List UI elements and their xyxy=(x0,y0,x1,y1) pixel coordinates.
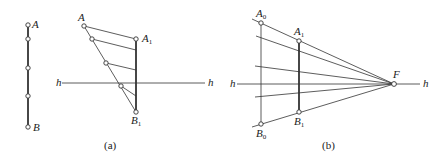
label-b1: B1 xyxy=(131,114,142,128)
point xyxy=(26,66,30,70)
point xyxy=(119,84,123,88)
ray-to-f xyxy=(255,66,394,84)
label-b: B xyxy=(33,121,40,133)
label-h-right-a: h xyxy=(208,76,214,88)
point-b1-b xyxy=(297,110,301,114)
label-h-right-b: h xyxy=(423,77,429,89)
ray-to-f xyxy=(256,36,394,84)
point-a0 xyxy=(259,21,263,25)
label-b1-b: B1 xyxy=(294,115,305,129)
label-a-oblique: A xyxy=(77,11,85,23)
point-a xyxy=(26,23,30,27)
label-a: A xyxy=(31,18,39,30)
label-h-left-a: h xyxy=(56,76,62,88)
vanishing-point-f xyxy=(392,82,397,87)
point-b xyxy=(26,125,30,129)
label-a1: A1 xyxy=(141,32,153,46)
point-a1-b xyxy=(297,39,301,43)
caption-a: (a) xyxy=(104,139,117,152)
label-b0: B0 xyxy=(256,127,267,141)
connector-line xyxy=(106,63,136,70)
point xyxy=(90,37,94,41)
point-b0 xyxy=(259,122,263,126)
label-f: F xyxy=(392,68,400,80)
point xyxy=(104,61,108,65)
point-a-oblique xyxy=(82,24,86,28)
label-h-left-b: h xyxy=(230,77,236,89)
caption-b: (b) xyxy=(322,139,335,152)
connector-line xyxy=(92,39,136,50)
label-a0: A0 xyxy=(255,7,267,21)
point-a1 xyxy=(134,37,138,41)
ray-to-f xyxy=(252,19,394,84)
label-a1-b: A1 xyxy=(293,25,305,39)
perspective-diagram: A B A A1 B1 h h (a) A0 B0 A1 B1 F h h (b… xyxy=(0,0,443,161)
point xyxy=(26,94,30,98)
point xyxy=(26,37,30,41)
